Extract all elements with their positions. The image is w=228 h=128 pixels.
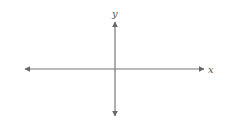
coordinate-axes-diagram: x y — [0, 0, 228, 128]
x-axis-label: x — [208, 64, 214, 75]
y-axis-label: y — [111, 8, 118, 19]
